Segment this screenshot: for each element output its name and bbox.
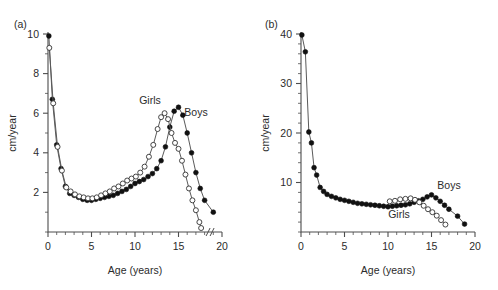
data-point-boys bbox=[154, 166, 159, 171]
data-point-boys bbox=[360, 201, 365, 206]
data-point-girls bbox=[173, 140, 178, 145]
data-point-girls bbox=[430, 210, 435, 215]
data-point-boys bbox=[306, 130, 311, 135]
data-point-boys bbox=[299, 33, 304, 38]
data-point-boys bbox=[189, 150, 194, 155]
data-point-girls bbox=[186, 186, 191, 191]
data-point-boys bbox=[429, 192, 434, 197]
data-point-girls bbox=[398, 197, 403, 202]
data-point-boys bbox=[198, 186, 203, 191]
series-label-boys: Boys bbox=[437, 179, 460, 191]
y-tick-label: 6 bbox=[33, 107, 39, 119]
data-point-girls bbox=[64, 185, 69, 190]
data-point-girls bbox=[151, 142, 156, 147]
panel-label-b: (b) bbox=[265, 18, 278, 30]
data-point-boys bbox=[176, 105, 181, 110]
data-point-girls bbox=[166, 117, 171, 122]
data-point-girls bbox=[142, 164, 147, 169]
data-point-girls bbox=[197, 220, 202, 225]
y-tick-label: 40 bbox=[280, 28, 292, 40]
data-point-girls bbox=[183, 172, 188, 177]
x-tick-label: 20 bbox=[216, 240, 228, 252]
data-point-girls bbox=[138, 170, 143, 175]
panel-b: 0510152010203040(b)Age (years)cm/yearGir… bbox=[249, 0, 498, 290]
x-axis-title: Age (years) bbox=[361, 264, 415, 276]
data-point-boys bbox=[128, 184, 133, 189]
data-point-girls bbox=[190, 198, 195, 203]
x-tick-label: 15 bbox=[426, 240, 438, 252]
series-label-girls: Girls bbox=[139, 94, 161, 106]
data-point-boys bbox=[318, 185, 323, 190]
data-point-girls bbox=[55, 144, 60, 149]
x-tick-label: 10 bbox=[382, 240, 394, 252]
x-tick-label: 15 bbox=[173, 240, 185, 252]
data-point-boys bbox=[124, 187, 129, 192]
data-point-girls bbox=[169, 131, 174, 136]
series-line-girls bbox=[49, 48, 201, 228]
data-point-boys bbox=[159, 158, 164, 163]
data-point-boys bbox=[368, 202, 373, 207]
x-tick-label: 10 bbox=[129, 240, 141, 252]
data-point-girls bbox=[417, 200, 422, 205]
x-tick-label: 0 bbox=[45, 240, 51, 252]
data-point-girls bbox=[193, 208, 198, 213]
data-point-boys bbox=[351, 200, 356, 205]
data-point-boys bbox=[146, 174, 151, 179]
series-label-girls: Girls bbox=[388, 208, 410, 220]
data-point-boys bbox=[303, 49, 308, 54]
data-point-boys bbox=[438, 199, 443, 204]
panel-a: 05101520246810(a)Age (years)cm/yearGirls… bbox=[0, 0, 249, 290]
data-point-boys bbox=[314, 173, 319, 178]
data-point-boys bbox=[202, 198, 207, 203]
data-point-boys bbox=[150, 171, 155, 176]
data-point-boys bbox=[373, 203, 378, 208]
data-point-boys bbox=[447, 207, 452, 212]
data-point-girls bbox=[51, 101, 56, 106]
data-point-girls bbox=[146, 154, 151, 159]
data-point-boys bbox=[455, 214, 460, 219]
x-tick-label: 0 bbox=[298, 240, 304, 252]
x-tick-label: 5 bbox=[342, 240, 348, 252]
data-point-girls bbox=[403, 196, 408, 201]
growth-velocity-figure: 05101520246810(a)Age (years)cm/yearGirls… bbox=[0, 0, 498, 290]
y-tick-label: 10 bbox=[27, 28, 39, 40]
data-point-girls bbox=[155, 127, 160, 132]
data-point-boys bbox=[46, 34, 51, 39]
data-point-girls bbox=[443, 222, 448, 227]
data-point-boys bbox=[462, 222, 467, 227]
data-point-girls bbox=[162, 111, 167, 116]
y-tick-label: 8 bbox=[33, 67, 39, 79]
series-label-boys: Boys bbox=[184, 106, 207, 118]
data-point-boys bbox=[433, 195, 438, 200]
x-axis-title: Age (years) bbox=[108, 264, 162, 276]
y-tick-label: 30 bbox=[280, 77, 292, 89]
data-point-boys bbox=[364, 202, 369, 207]
panel-b-plot: 0510152010203040(b)Age (years)cm/yearGir… bbox=[249, 0, 498, 290]
data-point-boys bbox=[338, 197, 343, 202]
data-point-boys bbox=[355, 201, 360, 206]
data-point-girls bbox=[133, 174, 138, 179]
y-axis-title: cm/year bbox=[259, 114, 271, 152]
data-point-boys bbox=[342, 198, 347, 203]
data-point-boys bbox=[163, 144, 168, 149]
data-point-girls bbox=[199, 226, 204, 231]
data-point-girls bbox=[176, 146, 181, 151]
data-point-girls bbox=[421, 203, 426, 208]
x-tick-label: 20 bbox=[469, 240, 481, 252]
data-point-boys bbox=[346, 199, 351, 204]
data-point-boys bbox=[172, 109, 177, 114]
y-axis-title: cm/year bbox=[6, 114, 18, 152]
y-tick-label: 4 bbox=[33, 146, 39, 158]
data-point-boys bbox=[312, 165, 317, 170]
data-point-girls bbox=[387, 199, 392, 204]
data-point-boys bbox=[211, 210, 216, 215]
data-point-girls bbox=[439, 218, 444, 223]
data-point-girls bbox=[59, 168, 64, 173]
data-point-boys bbox=[442, 203, 447, 208]
data-point-boys bbox=[194, 170, 199, 175]
y-tick-label: 20 bbox=[280, 127, 292, 139]
data-point-girls bbox=[179, 158, 184, 163]
data-point-girls bbox=[434, 213, 439, 218]
data-point-boys bbox=[141, 177, 146, 182]
panel-label-a: (a) bbox=[14, 18, 27, 30]
